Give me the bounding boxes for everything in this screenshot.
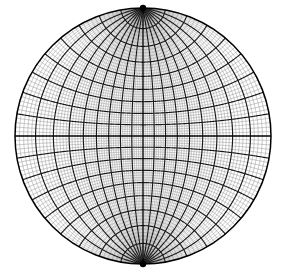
north-pole-dot xyxy=(140,5,146,11)
stereonet-figure xyxy=(0,0,286,277)
stereonet-svg xyxy=(0,0,286,277)
south-pole-dot xyxy=(140,261,146,267)
